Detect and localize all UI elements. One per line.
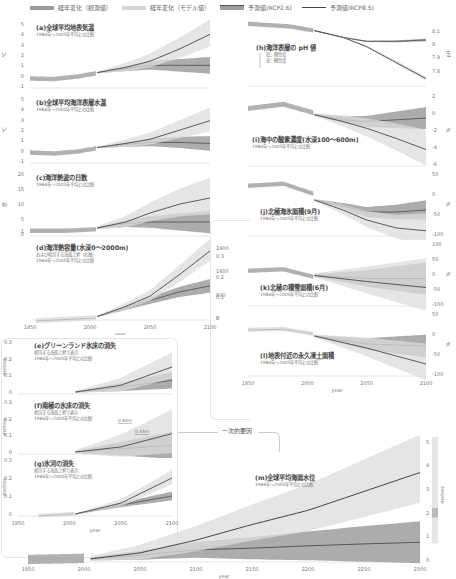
y-axis-label: 倍 (1, 202, 8, 207)
x-tick: 2000 (301, 380, 314, 386)
y-tick: -4 (432, 144, 437, 150)
y-tick: 2 (21, 52, 24, 58)
x-tick: 2100 (204, 324, 217, 330)
y-tick: 0 (432, 110, 435, 116)
chart-i: -6-4-202%(i)海中の酸素濃度(水深100～600m)1986年～200… (248, 93, 451, 167)
x-tick: 2150 (246, 566, 259, 572)
panel-e: 00.10.20.3metres(e)グリーンランド氷床の消失相当する海面上昇で… (0, 338, 180, 398)
x-tick: 2250 (358, 566, 371, 572)
y-tick: 20 (18, 171, 24, 177)
y-tick: 100 (432, 241, 442, 247)
y-tick: 10 (18, 201, 24, 207)
y-tick: 0.3 (4, 339, 12, 345)
panel-i: -6-4-202%(i)海中の酸素濃度(水深100～600m)1986年～200… (230, 90, 456, 170)
panel-title: (h)海洋表層の pH 値 (256, 43, 317, 52)
chart-c: 015101520倍(c)海洋熱波の日数1986年～2005年平均との比較 (1, 171, 210, 237)
series-line (314, 31, 426, 79)
panel-subtitle: 1986年～2005年平均との比較 (260, 359, 319, 366)
chart-h: 7.87.988.1pH(h)海洋表層の pH 値低：酸性度高：酸性度 (248, 22, 452, 86)
x-tick: 1950 (22, 566, 35, 572)
x-tick: 2000 (84, 324, 97, 330)
y-tick: 3 (426, 486, 429, 492)
y-tick: 2 (21, 127, 24, 133)
y-tick: 50 (432, 171, 438, 177)
panel-title: (b)全球平均海洋表層水温 (36, 98, 107, 107)
y-tick: 0 (426, 557, 429, 563)
uncertainty-band (314, 30, 426, 80)
rcp26-swatch-icon (220, 5, 244, 10)
y-tick: 4 (21, 106, 24, 112)
model-swatch-icon (122, 6, 146, 10)
y-tick-right: 0.2 (216, 274, 224, 280)
annotation-084: 0.84m (118, 418, 132, 423)
chart-j: -100-50050%(j)北極海氷面積(9月)1986年～2005年平均との比… (248, 171, 451, 240)
panel-subtitle: 1986年～2005年平均との比較 (36, 181, 95, 188)
y-axis-label: % (445, 341, 451, 346)
legend: 経年変化（観測値） 経年変化（モデル値） 予測値(RCP2.6) 予測値(RCP… (30, 3, 374, 12)
y-tick-right: 0.1 (216, 294, 224, 300)
y-tick: -1 (19, 83, 24, 89)
x-tick: 2000 (78, 566, 91, 572)
y-tick: 7.9 (432, 54, 440, 60)
y-tick: 1 (21, 137, 24, 143)
panel-subtitle: 1986年～2005年平均との比較 (36, 106, 95, 113)
y-tick: 1 (21, 62, 24, 68)
y-tick: 1 (21, 228, 24, 234)
legend-item-model: 経年変化（モデル値） (122, 3, 210, 12)
y-tick: -50 (432, 286, 440, 292)
panel-a: -1012345℃(a)全球平均地表気温1986年～2005年平均との比較 (0, 20, 230, 95)
y-tick: 4 (21, 31, 24, 37)
panel-title: (j)北極海氷面積(9月) (260, 207, 320, 216)
panel-subtitle: 1986年～2005年平均との比較 (36, 257, 95, 264)
y-tick: 50 (432, 256, 438, 262)
panel-subtitle: 1986年～2005年平均との比較 (260, 291, 319, 298)
x-tick: 2300 (414, 566, 427, 572)
y-tick: -100 (432, 301, 443, 307)
range-bar (432, 437, 438, 543)
panel-title: (d)海洋熱容量(水深0～2000m) (36, 243, 129, 252)
x-tick: 1950 (24, 324, 37, 330)
panel-c: 015101520倍(c)海洋熱波の日数1986年～2005年平均との比較 (0, 170, 230, 240)
uncertainty-band (314, 258, 426, 310)
chart-b: -1012345℃(b)全球平均海洋表層水温1986年～2005年平均との比較 (1, 96, 210, 164)
y-tick: 2 (432, 93, 435, 99)
y-tick: -50 (432, 211, 440, 217)
uncertainty-band (248, 182, 313, 196)
panel-subtitle: 1986年～2005年平均との比較 (36, 31, 95, 38)
chart-k: -100-50050100%(k)北極の積雪面積(6月)1986年～2005年平… (248, 241, 451, 310)
panel-subtitle: 1986年～2005年平均との比較 (255, 481, 314, 488)
y-axis-label: % (445, 271, 451, 276)
y-tick: -6 (432, 161, 437, 167)
uncertainty-band (248, 22, 313, 33)
y-tick: 2400 (216, 245, 229, 251)
uncertainty-band (30, 146, 96, 156)
x-tick: 2100 (190, 566, 203, 572)
annotation-043: 0.43m (135, 429, 149, 434)
chart-a: -1012345℃(a)全球平均地表気温1986年～2005年平均との比較 (1, 20, 210, 89)
legend-item-obs: 経年変化（観測値） (30, 3, 112, 12)
panel-subtitle: 1986年～2005年平均との比較 (34, 355, 93, 362)
y-axis-label: metres (1, 358, 7, 376)
legend-item-rcp26: 予測値(RCP2.6) (220, 3, 292, 12)
y-tick: 5 (21, 21, 24, 27)
x-axis-label: year (331, 387, 343, 394)
panel-subtitle: 1986年～2005年平均との比較 (260, 215, 319, 222)
legend-label: 予測値(RCP8.5) (330, 3, 374, 12)
y-axis-label: metres (439, 486, 445, 504)
panel-title: (l)地表付近の永久凍土面積 (260, 351, 335, 360)
x-tick: 2050 (134, 566, 147, 572)
y-tick: 15 (18, 186, 24, 192)
rcp85-line-icon (302, 7, 326, 9)
uncertainty-band (97, 240, 210, 317)
uncertainty-band (248, 102, 313, 115)
chart-d: 08001600240000.10.20.31950200020502100ye… (24, 240, 230, 335)
y-tick: 5 (426, 439, 429, 445)
y-tick: 0 (432, 271, 435, 277)
panel-subtitle: 高：酸性度 (266, 57, 287, 64)
y-tick: 8.1 (432, 28, 440, 34)
y-tick: 5 (21, 96, 24, 102)
panel-h: 7.87.988.1pH(h)海洋表層の pH 値低：酸性度高：酸性度 (230, 20, 456, 90)
x-axis-label: year (114, 331, 126, 335)
legend-label: 予測値(RCP2.6) (248, 3, 292, 12)
y-tick: -100 (432, 371, 443, 377)
